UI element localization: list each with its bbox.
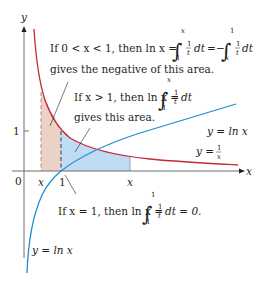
origin-label: 0 (15, 175, 22, 187)
y-axis-arrow (22, 26, 27, 32)
x-tick-one: 1 (59, 176, 66, 188)
frac-den: t (187, 49, 190, 57)
limit-lower: 1 (176, 54, 180, 62)
y-axis-label: y (20, 11, 28, 23)
recip-frac-num: 1 (217, 144, 221, 152)
limit-lower-2: x (225, 54, 229, 62)
frac-num-3: 1 (174, 89, 178, 97)
x-tick-left: x (38, 176, 44, 188)
annotation-2-line2: gives this area. (74, 111, 155, 123)
eq: = (207, 42, 216, 54)
frac-num-4: 1 (158, 203, 162, 211)
x-tick-right: x (127, 176, 133, 188)
frac-num-2: 1 (236, 40, 240, 48)
y-tick-label: 1 (13, 125, 20, 137)
recip-label: y = (195, 145, 214, 157)
annotation-1-line2: gives the negative of this area. (50, 63, 214, 75)
annotation-3-tail: dt = 0. (165, 205, 201, 217)
x-axis-arrow (239, 169, 245, 174)
limit-upper: x (181, 27, 185, 35)
pointer-3 (65, 175, 76, 194)
limit-lower-3: 1 (162, 104, 166, 112)
recip-frac-den: x (217, 153, 221, 161)
dt: dt (194, 42, 206, 54)
frac-den-2: t (236, 49, 239, 57)
ln-label-right: y = ln x (206, 125, 248, 137)
pointer-1 (50, 82, 68, 126)
limit-lower-4: 1 (146, 218, 150, 226)
dt-2: dt (242, 42, 253, 54)
dt-3: dt (181, 91, 193, 103)
limit-upper-2: 1 (230, 27, 234, 35)
limit-upper-3: x (167, 76, 171, 84)
x-axis-label: x (246, 165, 252, 177)
pink-area (41, 92, 61, 171)
ln-label-bottom: y = ln x (31, 244, 73, 256)
annotation-1-line1: If 0 < x < 1, then ln x = (50, 42, 177, 54)
frac-den-3: t (174, 98, 177, 106)
limit-upper-4: 1 (151, 191, 155, 199)
ln-integral-diagram: y x 0 1 x 1 x If 0 < x < 1, then ln x = … (0, 0, 253, 286)
frac-den-4: t (158, 212, 161, 220)
frac-num: 1 (187, 40, 191, 48)
